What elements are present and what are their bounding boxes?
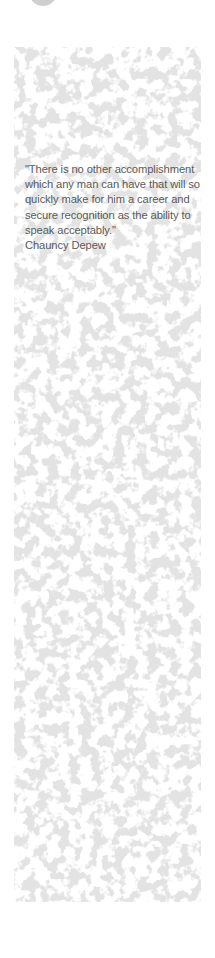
- textured-quote-panel: "There is no other accomplishment which …: [14, 47, 201, 902]
- quote-block: "There is no other accomplishment which …: [25, 162, 201, 253]
- quote-text: "There is no other accomplishment which …: [25, 163, 200, 236]
- quote-author: Chauncy Depew: [25, 238, 201, 253]
- decorative-circle: [29, 0, 57, 6]
